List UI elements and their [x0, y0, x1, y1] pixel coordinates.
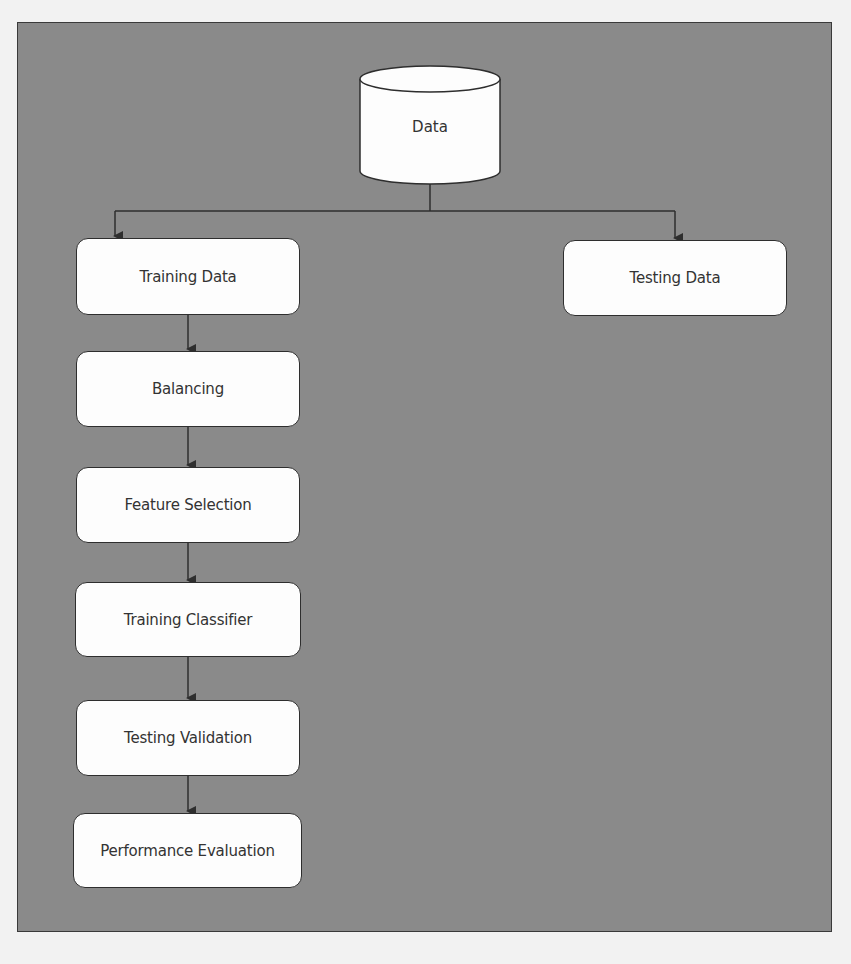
node-feature-selection: Feature Selection [76, 467, 300, 543]
node-training-data: Training Data [76, 238, 300, 315]
node-training-classifier: Training Classifier [75, 582, 301, 657]
node-testing-validation: Testing Validation [76, 700, 300, 776]
node-balancing: Balancing [76, 351, 300, 427]
node-testing-data: Testing Data [563, 240, 787, 316]
data-source-label: Data [360, 118, 500, 136]
node-performance-evaluation: Performance Evaluation [73, 813, 302, 888]
